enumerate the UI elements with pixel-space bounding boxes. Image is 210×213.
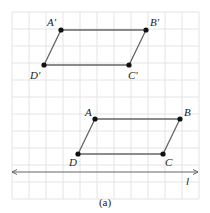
parallelogram-original: ABCD <box>68 106 191 168</box>
vertex-point <box>143 27 148 32</box>
vertex-label: B' <box>150 16 160 28</box>
vertex-point <box>58 27 63 32</box>
line-l-label: l <box>186 175 189 187</box>
parallelogram-translation-diagram: l A'B'C'D' ABCD (a) <box>0 0 210 213</box>
grid <box>12 12 199 199</box>
vertex-label: C <box>165 156 173 168</box>
vertex-point <box>126 62 131 67</box>
parallelogram-image: A'B'C'D' <box>29 16 160 81</box>
vertex-point <box>41 62 46 67</box>
vertex-label: D' <box>29 69 41 81</box>
line-l: l <box>12 170 198 188</box>
vertex-label: C' <box>128 69 138 81</box>
vertex-point <box>92 116 97 121</box>
vertex-label: A' <box>46 16 57 28</box>
vertex-label: A <box>84 106 92 118</box>
figure-caption: (a) <box>99 196 112 209</box>
vertex-label: B <box>184 106 191 118</box>
vertex-point <box>177 116 182 121</box>
vertex-label: D <box>68 156 77 168</box>
